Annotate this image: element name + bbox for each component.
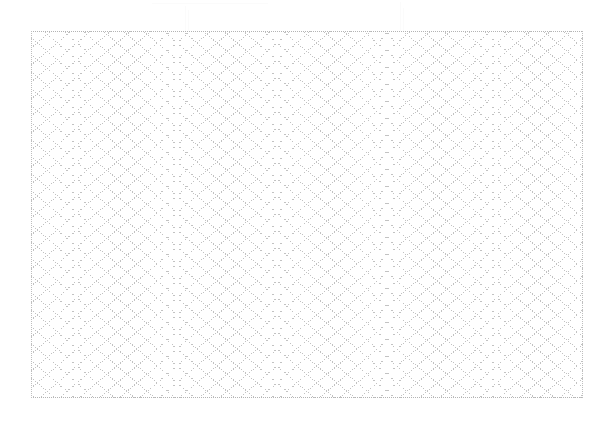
ghost-horizontal-rule — [152, 3, 268, 4]
lattice-sheet — [31, 31, 583, 398]
page-canvas — [0, 0, 616, 444]
ghost-vertical-rule — [403, 8, 404, 31]
lattice-svg — [31, 31, 583, 398]
diamond-lattice-grid — [31, 31, 583, 398]
sheet-border-left — [31, 31, 32, 398]
sheet-border-top — [31, 31, 583, 32]
ghost-vertical-rule — [400, 2, 401, 31]
ghost-header-text — [74, 1, 264, 8]
scanner-artifact-layer — [0, 0, 616, 31]
ghost-vertical-rule — [185, 6, 186, 31]
sheet-border-bottom — [31, 397, 583, 398]
ghost-vertical-rule — [188, 10, 189, 31]
sheet-border-right — [582, 31, 583, 398]
